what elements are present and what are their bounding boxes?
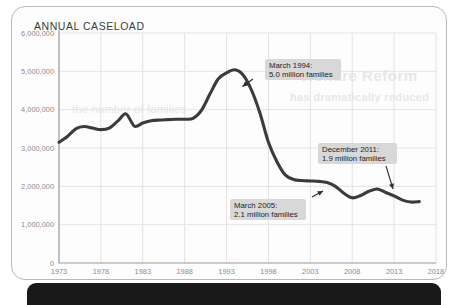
y-axis-tick: 1,000,000 bbox=[21, 220, 54, 229]
x-axis-tick-labels: 1973197819831988199319982003200820132018 bbox=[51, 267, 444, 276]
annotation-label-dec-2011: December 2011:1.9 million families bbox=[318, 143, 397, 164]
annotation-line-2: 2.1 million families bbox=[234, 210, 298, 219]
y-axis-tick: 3,000,000 bbox=[21, 144, 54, 153]
x-axis-tick: 1973 bbox=[51, 267, 67, 276]
chart-series-group bbox=[59, 70, 419, 202]
annotation-line-2: 5.0 million families bbox=[269, 70, 333, 79]
annotation-line-2: 1.9 million families bbox=[322, 154, 386, 163]
annotation-label-mar-2005: March 2005:2.1 million families bbox=[230, 199, 306, 220]
chart-card: Welfare Reform has dramatically reduced … bbox=[11, 6, 447, 280]
chart-annotations-group: March 1994:5.0 million familiesDecember … bbox=[230, 59, 397, 220]
y-axis-tick: 2,000,000 bbox=[21, 182, 54, 191]
annotation-leader-dec-2011 bbox=[386, 166, 394, 189]
annotation-line-1: March 1994: bbox=[269, 61, 312, 70]
x-axis-tick: 1998 bbox=[260, 267, 276, 276]
data-line bbox=[59, 70, 419, 202]
footer-bar bbox=[27, 283, 441, 305]
y-axis-tick: 5,000,000 bbox=[21, 67, 54, 76]
annotation-line-1: March 2005: bbox=[234, 201, 277, 210]
x-axis-tick: 2003 bbox=[302, 267, 318, 276]
x-axis-tick: 2008 bbox=[344, 267, 360, 276]
x-axis-tick: 1983 bbox=[135, 267, 151, 276]
chart-plot-area: 01,000,0002,000,0003,000,0004,000,0005,0… bbox=[12, 7, 447, 280]
annotation-leader-mar-2005 bbox=[312, 191, 323, 197]
annotation-line-1: December 2011: bbox=[322, 145, 379, 154]
annotation-label-peak-1994: March 1994:5.0 million families bbox=[265, 59, 341, 80]
x-axis-tick: 2018 bbox=[428, 267, 444, 276]
y-axis-tick-labels: 01,000,0002,000,0003,000,0004,000,0005,0… bbox=[21, 29, 54, 268]
y-axis-tick: 6,000,000 bbox=[21, 29, 54, 38]
line-chart-svg: 01,000,0002,000,0003,000,0004,000,0005,0… bbox=[12, 7, 447, 280]
x-axis-tick: 1978 bbox=[93, 267, 109, 276]
x-axis-tick: 1988 bbox=[176, 267, 192, 276]
y-axis-tick: 4,000,000 bbox=[21, 105, 54, 114]
x-axis-tick: 1993 bbox=[218, 267, 234, 276]
x-axis-tick: 2013 bbox=[386, 267, 402, 276]
